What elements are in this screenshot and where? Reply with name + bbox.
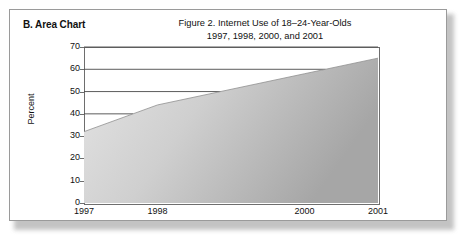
screenshot-root: B. Area Chart Figure 2. Internet Use of … [0,0,466,239]
section-heading: B. Area Chart [23,19,85,30]
chart-title-line-2: 1997, 1998, 2000, and 2001 [120,30,410,43]
figure-panel: B. Area Chart Figure 2. Internet Use of … [9,9,447,221]
chart-title-line-1: Figure 2. Internet Use of 18–24-Year-Old… [120,17,410,30]
chart-title: Figure 2. Internet Use of 18–24-Year-Old… [120,17,410,42]
